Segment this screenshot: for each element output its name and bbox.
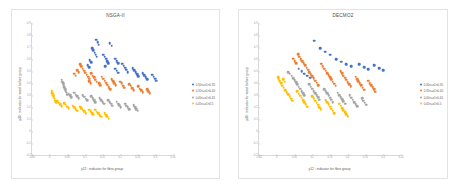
scatter-point — [89, 82, 92, 85]
scatter-point — [344, 102, 347, 105]
y-axis-label-wrap-left: y30 : indicator for vasel before group — [16, 10, 24, 178]
scatter-point — [346, 115, 349, 118]
legend-item[interactable]: 0.45<=x1<0.5 — [420, 101, 443, 105]
legend-marker-icon — [192, 96, 194, 98]
scatter-point — [104, 65, 107, 68]
scatter-point — [141, 91, 144, 94]
y-tick-label: 0.5 — [27, 70, 31, 73]
x-tick-label: 0.2 — [346, 156, 350, 159]
y-tick-label: 0 — [256, 130, 257, 133]
y-tick-label: 0.8 — [27, 34, 31, 37]
scatter-point — [283, 80, 286, 83]
y-tick-label: 0.9 — [254, 22, 258, 25]
scatter-point — [84, 112, 87, 115]
x-tick-label: 0.35 — [170, 156, 175, 159]
scatter-point — [378, 67, 381, 70]
scatter-point — [115, 84, 118, 87]
scatter-point — [306, 105, 309, 108]
y-axis-label-right: y30 : indicator for vasel before group — [245, 67, 249, 121]
scatter-point — [148, 92, 151, 95]
y-tick-label: 0.5 — [254, 70, 258, 73]
legend-marker-icon — [420, 83, 422, 85]
y-tick-label: 0.1 — [254, 118, 258, 121]
legend-marker-icon — [420, 96, 422, 98]
chart-frame-left: NSGA-II y30 : indicator for vasel before… — [11, 9, 220, 179]
scatter-point — [318, 98, 321, 101]
legend-label: 0.40<=x1<0.45 — [196, 95, 215, 99]
y-tick-label: 0.4 — [254, 82, 258, 85]
legend-right: 0.30<=x1<0.350.35<=x1<0.400.40<=x1<0.450… — [420, 83, 443, 106]
scatter-point — [67, 107, 70, 110]
scatter-point — [374, 90, 377, 93]
scatter-point — [332, 101, 335, 104]
scatter-point — [107, 62, 110, 65]
legend-left: 0.30<=x1<0.350.35<=x1<0.400.40<=x1<0.450… — [192, 83, 215, 106]
scatter-point — [96, 56, 99, 59]
scatter-point — [79, 105, 82, 108]
scatter-point — [358, 63, 361, 66]
chart-title-right: DECMO2 — [239, 13, 447, 18]
scatter-point — [313, 39, 316, 42]
legend-item[interactable]: 0.40<=x1<0.45 — [192, 95, 215, 99]
x-tick-label: 0 — [49, 156, 50, 159]
scatter-point — [128, 108, 131, 111]
chart-panel-nsga2: NSGA-II y30 : indicator for vasel before… — [0, 0, 227, 187]
scatter-point — [60, 79, 63, 82]
scatter-point — [103, 102, 106, 105]
scatter-point — [50, 90, 53, 93]
scatter-point — [373, 64, 376, 67]
legend-item[interactable]: 0.35<=x1<0.40 — [192, 89, 215, 93]
legend-label: 0.30<=x1<0.35 — [424, 83, 443, 87]
scatter-point — [110, 44, 113, 47]
scatter-point — [146, 78, 149, 81]
plot-area-left: -0.2-0.100.10.20.30.40.50.60.70.80.9-0.0… — [31, 23, 173, 156]
scatter-point — [108, 117, 111, 120]
legend-label: 0.35<=x1<0.40 — [196, 89, 215, 93]
scatter-point — [109, 88, 112, 91]
x-tick-label: -0.05 — [256, 156, 262, 159]
scatter-point — [363, 66, 366, 69]
y-tick-label: 0.3 — [27, 94, 31, 97]
legend-item[interactable]: 0.45<=x1<0.5 — [192, 101, 215, 105]
x-tick-label: 0 — [276, 156, 277, 159]
y-tick-label: 0.4 — [27, 82, 31, 85]
legend-marker-icon — [420, 102, 422, 104]
scatter-point — [86, 99, 89, 102]
plot-area-right: -0.2-0.100.10.20.30.40.50.60.70.80.9-0.0… — [258, 23, 401, 156]
scatter-point — [74, 75, 77, 78]
scatter-point — [127, 71, 130, 74]
legend-marker-icon — [192, 102, 194, 104]
scatter-point — [132, 89, 135, 92]
scatter-point — [123, 86, 126, 89]
scatter-point — [349, 85, 352, 88]
scatter-point — [333, 112, 336, 115]
scatter-point — [111, 104, 114, 107]
scatter-point — [295, 62, 298, 65]
scatter-point — [117, 71, 120, 74]
scatter-point — [329, 53, 332, 56]
legend-item[interactable]: 0.30<=x1<0.35 — [420, 83, 443, 87]
scatter-point — [335, 58, 338, 61]
legend-item[interactable]: 0.30<=x1<0.35 — [192, 83, 215, 87]
scatter-point — [90, 61, 93, 64]
chart-frame-right: DECMO2 y30 : indicator for vasel before … — [238, 9, 448, 179]
scatter-point — [350, 65, 353, 68]
scatter-point — [382, 69, 385, 72]
scatter-point — [155, 79, 158, 82]
scatter-point — [97, 44, 100, 47]
scatter-point — [345, 63, 348, 66]
legend-item[interactable]: 0.40<=x1<0.45 — [420, 95, 443, 99]
legend-item[interactable]: 0.35<=x1<0.40 — [420, 89, 443, 93]
scatter-point — [367, 68, 370, 71]
x-tick-label: 0.25 — [363, 156, 368, 159]
x-tick-label: 0.1 — [83, 156, 87, 159]
y-tick-label: -0.1 — [253, 142, 257, 145]
x-tick-label: 0.05 — [292, 156, 297, 159]
scatter-point — [60, 105, 63, 108]
scatter-point — [76, 109, 79, 112]
y-tick-label: 0.9 — [27, 22, 31, 25]
y-tick-label: 0.6 — [27, 58, 31, 61]
y-tick-label: 0.8 — [254, 34, 258, 37]
scatter-point — [303, 94, 306, 97]
legend-marker-icon — [420, 90, 422, 92]
